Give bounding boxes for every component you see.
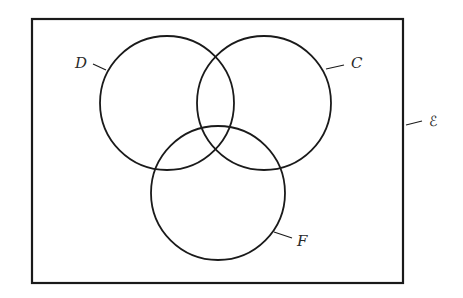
set-d-label: D: [74, 54, 87, 72]
set-d-leader: [93, 64, 106, 70]
universal-set-label: ℰ: [429, 113, 437, 129]
set-c-leader: [326, 65, 344, 69]
set-c-circle: [197, 36, 331, 170]
set-f-label: F: [296, 232, 308, 250]
venn-diagram: D C F ℰ: [0, 0, 463, 298]
set-f-leader: [274, 232, 292, 238]
set-c-label: C: [351, 54, 363, 72]
universal-set-leader: [406, 121, 422, 125]
